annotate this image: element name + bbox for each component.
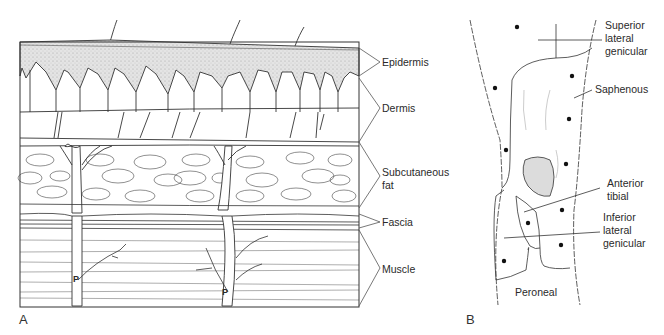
label-anterior-2: tibial <box>607 190 629 203</box>
label-superior-2: lateral <box>605 32 634 45</box>
label-fascia: Fascia <box>382 216 413 229</box>
panel-b-knee-nerve-map: Superior lateral genicular Saphenous Ant… <box>440 0 664 335</box>
label-superior-3: genicular <box>605 45 648 58</box>
label-peroneal: Peroneal <box>515 286 557 299</box>
label-anterior-1: Anterior <box>607 177 644 190</box>
panel-letter-b: B <box>466 312 475 327</box>
label-muscle: Muscle <box>382 263 415 276</box>
layer-brackets <box>359 48 380 306</box>
label-epidermis: Epidermis <box>382 56 429 69</box>
panel-a-skin-cross-section: Epidermis Dermis Subcutaneous fat Fascia… <box>0 0 440 335</box>
label-inferior-3: genicular <box>603 237 646 250</box>
skin-layers-illustration <box>0 0 440 335</box>
muscle-fibers <box>20 240 359 300</box>
panel-letter-a: A <box>19 312 28 327</box>
patella-area <box>523 157 554 196</box>
label-superior-1: Superior <box>605 19 645 32</box>
landmark-dots <box>493 25 574 263</box>
perforator-mark-1: P <box>73 273 79 286</box>
label-dermis: Dermis <box>382 102 415 115</box>
perforator-mark-2: P <box>222 286 228 299</box>
label-fat: fat <box>382 179 394 192</box>
label-inferior-2: lateral <box>603 224 632 237</box>
label-inferior-1: Inferior <box>603 211 636 224</box>
label-saphenous: Saphenous <box>595 83 648 96</box>
